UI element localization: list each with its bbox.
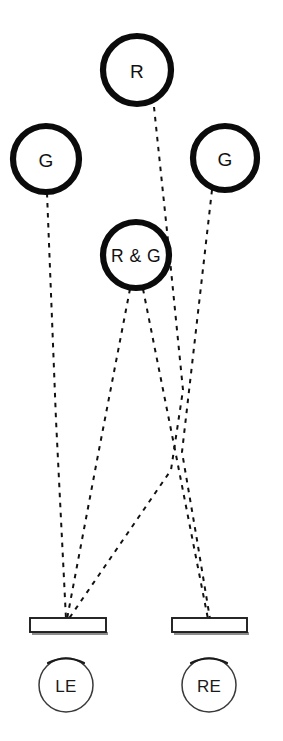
binocular-stimulus-diagram: R G G R & G bbox=[0, 0, 283, 741]
bar-group bbox=[30, 618, 249, 635]
stimulus-circle-g-left-label: G bbox=[39, 150, 54, 171]
eye-group: LE RE bbox=[39, 658, 236, 712]
ray-g-right-to-right-eye bbox=[182, 190, 212, 619]
stimulus-circle-r-label: R bbox=[130, 61, 144, 82]
stimulus-circle-r-and-g-label: R & G bbox=[111, 246, 161, 266]
stimulus-circle-g-right: G bbox=[193, 126, 257, 190]
ray-g-left-to-left-eye bbox=[47, 193, 66, 619]
aperture-bar-left-outline bbox=[30, 618, 106, 632]
stimulus-circle-g-right-label: G bbox=[218, 149, 233, 170]
stimulus-circle-r: R bbox=[103, 36, 171, 104]
eye-circle-right: RE bbox=[182, 658, 236, 712]
ray-r-and-g-to-left-eye bbox=[67, 289, 130, 619]
ray-r-to-left-eye bbox=[68, 107, 183, 620]
stimulus-circle-r-and-g: R & G bbox=[103, 222, 169, 288]
aperture-bar-right-outline bbox=[172, 618, 247, 632]
diagram-canvas: R G G R & G bbox=[0, 0, 283, 741]
aperture-bar-right bbox=[172, 618, 249, 635]
stimulus-circle-g-left: G bbox=[13, 126, 79, 192]
eye-circle-left: LE bbox=[39, 658, 93, 712]
aperture-bar-left bbox=[30, 618, 108, 635]
ray-r-and-g-to-right-eye bbox=[143, 289, 208, 619]
stimulus-group: R G G R & G bbox=[13, 36, 257, 288]
eye-circle-right-label: RE bbox=[197, 677, 221, 696]
eye-circle-left-label: LE bbox=[55, 677, 76, 696]
